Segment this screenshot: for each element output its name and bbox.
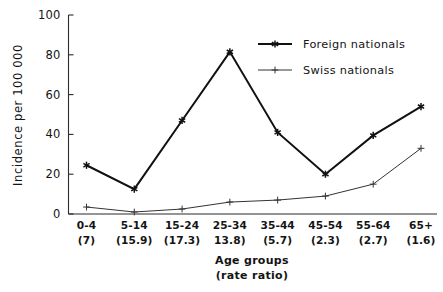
x-category-label: 35-44 (260, 219, 294, 231)
plus-marker-icon (322, 193, 329, 200)
plus-marker-icon (274, 197, 281, 204)
chart-legend: Foreign nationals Swiss nationals (258, 38, 405, 77)
legend-label-foreign: Foreign nationals (303, 38, 405, 51)
x-category-label: 45-54 (308, 219, 342, 231)
plus-marker-icon (83, 204, 90, 211)
x-category-label: 55-64 (356, 219, 390, 231)
star-marker-icon (418, 103, 424, 110)
x-category-label: 65+ (409, 219, 433, 231)
legend-label-swiss: Swiss nationals (303, 64, 394, 77)
plus-marker-icon (226, 199, 233, 206)
x-rate-ratio-label: (15.9) (116, 234, 152, 246)
plus-marker-icon (272, 67, 279, 74)
x-rate-ratio-label: 13.8) (214, 234, 245, 246)
y-tick-label: 100 (38, 8, 61, 22)
x-rate-ratio-label: (1.6) (407, 234, 436, 246)
x-rate-ratio-label: (17.3) (164, 234, 200, 246)
x-axis-title-line1: Age groups (215, 254, 289, 267)
y-axis-ticks (69, 15, 74, 214)
x-rate-ratio-label: (2.3) (311, 234, 340, 246)
plus-marker-icon (272, 67, 279, 74)
y-tick-label: 80 (45, 48, 60, 62)
y-tick-label: 20 (45, 167, 60, 181)
x-axis-rate-ratio-labels: (7)(15.9)(17.3)13.8)(5.7)(2.3)(2.7)(1.6) (78, 234, 436, 246)
plus-marker-icon (179, 206, 186, 213)
incidence-line-chart: 020406080100 0-45-1415-2425-3435-4445-54… (0, 0, 443, 292)
x-category-label: 25-34 (213, 219, 247, 231)
x-rate-ratio-label: (5.7) (263, 234, 292, 246)
x-rate-ratio-label: (7) (78, 234, 95, 246)
series-markers-swiss-nationals (83, 145, 424, 215)
x-category-label: 0-4 (77, 219, 96, 231)
x-category-label: 15-24 (165, 219, 199, 231)
y-tick-label: 0 (53, 207, 61, 221)
y-tick-label: 60 (45, 88, 60, 102)
y-axis-title: Incidence per 100 000 (11, 44, 25, 186)
chart-canvas: 020406080100 0-45-1415-2425-3435-4445-54… (0, 0, 443, 292)
series-line-swiss-nationals (87, 148, 422, 212)
x-category-label: 5-14 (121, 219, 148, 231)
x-rate-ratio-label: (2.7) (359, 234, 388, 246)
y-tick-label: 40 (45, 127, 60, 141)
x-axis-title-line2: (rate ratio) (216, 269, 288, 282)
y-axis-tick-labels: 020406080100 (38, 8, 61, 221)
x-axis-category-labels: 0-45-1415-2425-3435-4445-5455-6465+ (77, 219, 433, 231)
